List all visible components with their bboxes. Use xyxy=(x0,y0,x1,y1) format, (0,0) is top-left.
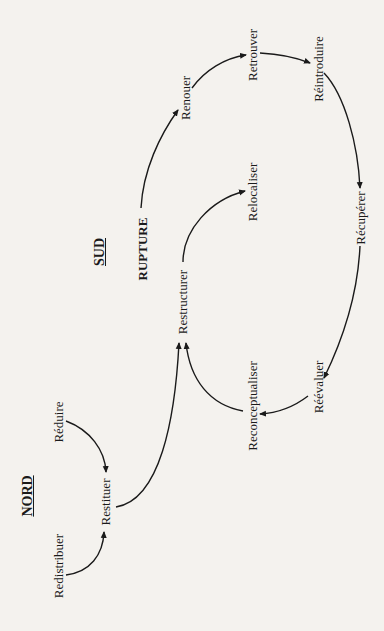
node-relocaliser: Relocaliser xyxy=(246,163,259,221)
node-redistribuer: Redistribuer xyxy=(52,534,65,598)
heading-nord: NORD xyxy=(21,475,35,516)
node-reconceptualiser: Reconceptualiser xyxy=(246,361,259,451)
node-restituer: Restituer xyxy=(99,479,112,526)
arrow-rupture-renouer xyxy=(141,110,178,208)
node-retrouver: Retrouver xyxy=(246,29,259,81)
heading-sud: SUD xyxy=(93,238,107,266)
diagram-page: SUD NORD RUPTURE Renouer Retrouver Réint… xyxy=(0,0,384,631)
node-reduire: Réduire xyxy=(52,401,65,442)
arrow-restituer-restructurer xyxy=(116,343,179,507)
arrow-reevaluer-reconceptualiser xyxy=(260,396,308,414)
arrow-renouer-retrouver xyxy=(192,55,246,88)
node-reintroduire: Réintroduire xyxy=(312,36,325,102)
node-restructurer: Restructurer xyxy=(176,270,189,334)
arrow-reconceptualiser-restructurer xyxy=(186,343,243,411)
arrow-recuperer-reevaluer xyxy=(324,246,360,378)
arrow-reintroduire-recuperer xyxy=(324,73,360,188)
arrow-retrouver-reintroduire xyxy=(260,53,310,63)
arrow-redistribuer-restituer xyxy=(66,532,104,575)
node-recuperer: Récupérer xyxy=(354,191,367,244)
node-renouer: Renouer xyxy=(179,76,192,120)
node-reevaluer: Réévaluer xyxy=(312,361,325,414)
arrow-reduire-restituer xyxy=(66,421,106,472)
arrow-restructurer-relocaliser xyxy=(183,191,245,262)
node-rupture: RUPTURE xyxy=(136,218,149,281)
